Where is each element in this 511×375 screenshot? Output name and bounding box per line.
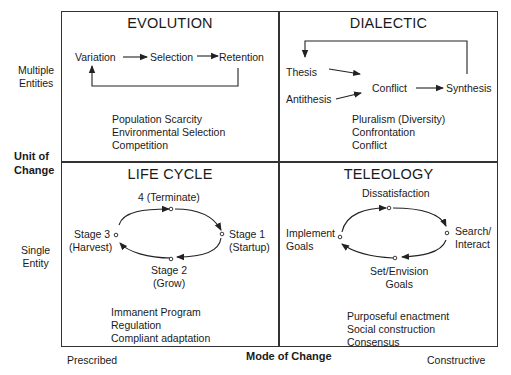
teleology-cycle-arrows — [342, 208, 446, 258]
cycle-node-markers — [114, 206, 449, 261]
evolution-arrows — [92, 56, 238, 86]
diagram-arrows — [0, 0, 511, 375]
lifecycle-cycle-arrows — [119, 209, 221, 258]
dialectic-arrows — [305, 41, 467, 99]
